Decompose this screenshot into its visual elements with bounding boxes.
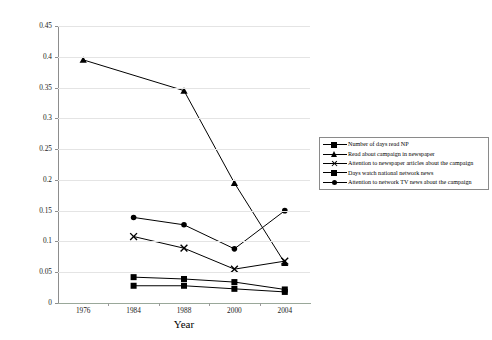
data-point-square xyxy=(131,274,137,280)
chart-figure: 00.050.10.150.20.250.30.350.40.45 197619… xyxy=(0,0,492,340)
series-layer xyxy=(58,26,310,303)
gridline xyxy=(58,241,310,242)
y-axis-tick-mark xyxy=(55,180,58,181)
x-axis-line xyxy=(58,303,311,304)
x-axis-tick-label: 1988 xyxy=(164,307,204,315)
y-axis-tick-label: 0.1 xyxy=(43,237,52,244)
y-axis-tick-mark xyxy=(55,211,58,212)
x-axis-tick-label: 2004 xyxy=(265,307,305,315)
series-line xyxy=(134,211,285,249)
gridline xyxy=(58,272,310,273)
gridline xyxy=(58,88,310,89)
data-point-square xyxy=(181,276,187,282)
legend-item: Days watch national network news xyxy=(322,168,486,177)
gridline xyxy=(58,57,310,58)
gridline xyxy=(58,149,310,150)
y-axis-tick-mark xyxy=(55,149,58,150)
x-axis-tick-mark xyxy=(209,303,210,306)
gridline xyxy=(58,118,310,119)
y-axis-tick-mark xyxy=(55,57,58,58)
y-axis-tick-mark xyxy=(55,88,58,89)
legend-label: Number of days read NP xyxy=(348,141,409,148)
legend-marker-triangle xyxy=(331,151,337,157)
x-axis-tick-mark xyxy=(159,303,160,306)
x-axis-title: Year xyxy=(124,318,244,330)
y-axis-tick-label: 0.4 xyxy=(43,53,52,60)
chart-legend: Number of days read NPRead about campaig… xyxy=(319,137,489,190)
series-3 xyxy=(131,274,288,292)
data-point-x xyxy=(130,233,137,240)
gridline xyxy=(58,180,310,181)
legend-label: Attention to newspaper articles about th… xyxy=(348,160,473,167)
x-axis-tick-label: 2000 xyxy=(214,307,254,315)
y-axis-tick-mark xyxy=(55,241,58,242)
legend-symbol xyxy=(322,178,348,187)
y-axis-tick-label: 0.3 xyxy=(43,114,52,121)
x-axis-tick-label: 1984 xyxy=(114,307,154,315)
legend-label: Attention to network TV news about the c… xyxy=(348,179,472,186)
y-axis-tick-label: 0.45 xyxy=(39,22,52,29)
legend-marker-circle xyxy=(332,180,337,185)
x-axis-tick-mark xyxy=(260,303,261,306)
x-axis-tick-label: 1976 xyxy=(63,307,103,315)
legend-marker-x xyxy=(331,160,338,167)
series-2 xyxy=(130,233,288,272)
series-line xyxy=(134,286,285,292)
data-point-square xyxy=(282,286,288,292)
x-axis-tick-mark xyxy=(108,303,109,306)
legend-item: Attention to network TV news about the c… xyxy=(322,178,486,187)
legend-symbol xyxy=(322,159,348,168)
data-point-square xyxy=(231,279,237,285)
y-axis-tick-label: 0.35 xyxy=(39,84,52,91)
y-axis-tick-mark xyxy=(55,118,58,119)
legend-label: Read about campaign in newspaper xyxy=(348,151,435,158)
gridline xyxy=(58,26,310,27)
series-0 xyxy=(131,283,288,295)
legend-marker-square xyxy=(331,170,337,176)
data-point-circle xyxy=(232,246,238,252)
legend-symbol xyxy=(322,168,348,177)
gridline xyxy=(58,211,310,212)
y-axis-tick-label: 0.15 xyxy=(39,207,52,214)
plot-area xyxy=(58,26,310,303)
data-point-square xyxy=(131,283,137,289)
legend-item: Number of days read NP xyxy=(322,140,486,149)
y-axis-tick-label: 0.05 xyxy=(39,268,52,275)
y-axis-tick-label: 0 xyxy=(48,299,52,306)
y-axis-tick-label: 0.2 xyxy=(43,176,52,183)
y-axis-tick-mark xyxy=(55,26,58,27)
data-point-square xyxy=(231,286,237,292)
y-axis-tick-mark xyxy=(55,272,58,273)
legend-item: Attention to newspaper articles about th… xyxy=(322,159,486,168)
data-point-circle xyxy=(181,222,187,228)
legend-label: Days watch national network news xyxy=(348,170,433,177)
data-point-x xyxy=(181,245,188,252)
data-point-square xyxy=(181,283,187,289)
legend-item: Read about campaign in newspaper xyxy=(322,149,486,158)
legend-marker-square xyxy=(331,142,337,148)
legend-symbol xyxy=(322,140,348,149)
y-axis-tick-mark xyxy=(55,303,58,304)
data-point-circle xyxy=(131,215,137,221)
legend-symbol xyxy=(322,150,348,159)
y-axis-tick-label: 0.25 xyxy=(39,145,52,152)
